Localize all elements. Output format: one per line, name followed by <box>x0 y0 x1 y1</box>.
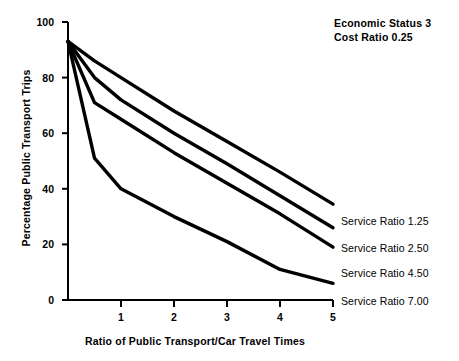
x-tick-label: 1 <box>111 312 131 322</box>
annotation-economic-status: Economic Status 3 <box>334 17 431 29</box>
chart-figure: Percentage Public Transport Trips Ratio … <box>0 0 459 361</box>
series-line <box>68 41 333 247</box>
x-tick-label: 5 <box>323 312 343 322</box>
series-label: Service Ratio 7.00 <box>341 295 429 307</box>
axis-lines <box>68 22 333 300</box>
y-tick-label: 100 <box>20 17 54 27</box>
x-tick-label: 2 <box>164 312 184 322</box>
series-line <box>68 41 333 283</box>
y-tick-label: 0 <box>20 295 54 305</box>
y-tick-label: 80 <box>20 73 54 83</box>
x-tick-label: 4 <box>270 312 290 322</box>
y-tick-label: 60 <box>20 128 54 138</box>
series-line <box>68 41 333 204</box>
y-tick-label: 20 <box>20 239 54 249</box>
x-tick-marks <box>121 300 333 307</box>
annotation-cost-ratio: Cost Ratio 0.25 <box>334 31 413 43</box>
series-label: Service Ratio 4.50 <box>341 267 429 279</box>
x-axis-label: Ratio of Public Transport/Car Travel Tim… <box>0 335 390 347</box>
y-tick-label: 40 <box>20 184 54 194</box>
x-tick-label: 3 <box>217 312 237 322</box>
series-label: Service Ratio 2.50 <box>341 242 429 254</box>
series-lines <box>68 41 333 283</box>
series-label: Service Ratio 1.25 <box>341 215 429 227</box>
